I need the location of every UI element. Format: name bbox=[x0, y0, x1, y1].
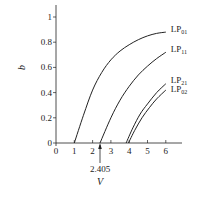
chart: 012345600.20.40.60.81 bV2.405LP01LP11LP2… bbox=[0, 0, 203, 200]
y-tick-label: 0.6 bbox=[41, 62, 53, 72]
y-tick-label: 0.4 bbox=[41, 88, 53, 98]
curve-lp02 bbox=[128, 90, 165, 143]
labels: bV2.405LP01LP11LP21LP02 bbox=[16, 24, 187, 187]
y-tick-label: 0 bbox=[48, 138, 53, 148]
x-axis-label: V bbox=[97, 176, 105, 187]
annotation-label: 2.405 bbox=[90, 164, 111, 174]
curve-lp21 bbox=[126, 84, 166, 143]
x-tick-label: 2 bbox=[90, 146, 95, 156]
x-tick-label: 1 bbox=[72, 146, 77, 156]
y-tick-label: 1 bbox=[48, 12, 53, 22]
y-tick-label: 0.8 bbox=[41, 37, 53, 47]
arrow-head-icon bbox=[98, 143, 102, 149]
x-tick-label: 4 bbox=[127, 146, 132, 156]
x-tick-label: 6 bbox=[164, 146, 169, 156]
x-tick-label: 0 bbox=[54, 146, 59, 156]
curve-lp11 bbox=[100, 52, 166, 143]
series-label-lp01: LP01 bbox=[171, 24, 188, 35]
curves bbox=[74, 32, 166, 143]
series-label-lp11: LP11 bbox=[171, 44, 187, 55]
y-tick-label: 0.2 bbox=[41, 113, 52, 123]
x-tick-label: 3 bbox=[109, 146, 114, 156]
curve-lp01 bbox=[74, 32, 166, 143]
y-axis-label: b bbox=[16, 65, 27, 70]
axes: 012345600.20.40.60.81 bbox=[41, 5, 182, 156]
x-tick-label: 5 bbox=[145, 146, 150, 156]
